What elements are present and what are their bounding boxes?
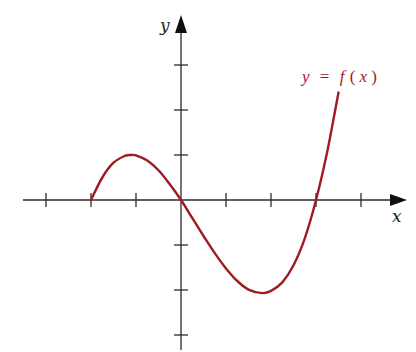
function-graph: x y y = f ( x ) — [0, 0, 416, 352]
function-label-eq: = — [320, 67, 330, 86]
y-axis: y — [159, 15, 188, 350]
x-axis-arrow-icon — [390, 194, 407, 206]
function-label-open-paren: ( — [350, 67, 356, 86]
x-axis: x — [23, 193, 407, 226]
function-label-f: f — [340, 67, 347, 86]
function-label-close-paren: ) — [371, 67, 377, 86]
y-axis-label: y — [159, 15, 170, 35]
function-label: y = f ( x ) — [300, 67, 377, 86]
function-label-lhs: y — [300, 67, 310, 86]
y-axis-arrow-icon — [175, 15, 187, 33]
x-axis-label: x — [392, 206, 402, 226]
function-label-arg: x — [359, 67, 368, 86]
function-curve — [91, 92, 339, 293]
